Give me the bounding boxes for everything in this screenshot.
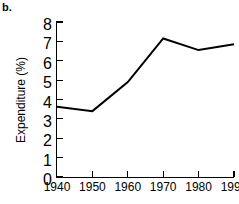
chart-series-layer	[0, 0, 239, 204]
figure-panel-b: b. Expenditure (%) 012345678 19401950196…	[0, 0, 239, 204]
line-series-expenditure	[57, 38, 234, 111]
